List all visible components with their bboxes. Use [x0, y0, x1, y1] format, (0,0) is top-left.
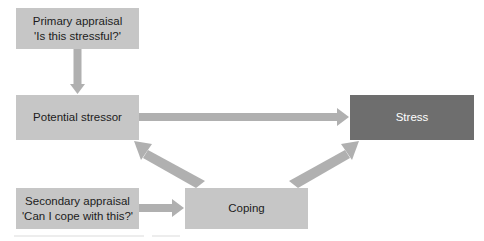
arrow-coping-to-stressor	[134, 141, 205, 188]
arrow-secondary-to-coping	[139, 199, 184, 217]
node-coping-label: Coping	[228, 201, 264, 216]
node-potential-stressor: Potential stressor	[16, 95, 139, 140]
arrow-primary-to-stressor	[70, 49, 85, 94]
node-secondary-appraisal-line2: 'Can I cope with this?'	[22, 209, 133, 224]
node-primary-appraisal-line1: Primary appraisal	[33, 14, 122, 29]
scan-artifact-bar	[14, 235, 144, 237]
node-secondary-appraisal: Secondary appraisal 'Can I cope with thi…	[16, 188, 139, 229]
stress-appraisal-diagram: Primary appraisal 'Is this stressful?' P…	[0, 0, 484, 241]
node-stress-label: Stress	[396, 110, 429, 125]
scan-artifact-bar	[152, 235, 180, 237]
node-primary-appraisal: Primary appraisal 'Is this stressful?'	[16, 8, 139, 49]
node-coping: Coping	[185, 188, 308, 229]
arrow-stressor-to-stress	[139, 108, 349, 126]
node-stress: Stress	[350, 95, 474, 140]
arrow-coping-to-stress	[289, 141, 359, 188]
node-primary-appraisal-line2: 'Is this stressful?'	[34, 29, 121, 44]
node-secondary-appraisal-line1: Secondary appraisal	[25, 194, 130, 209]
node-potential-stressor-label: Potential stressor	[33, 110, 122, 125]
